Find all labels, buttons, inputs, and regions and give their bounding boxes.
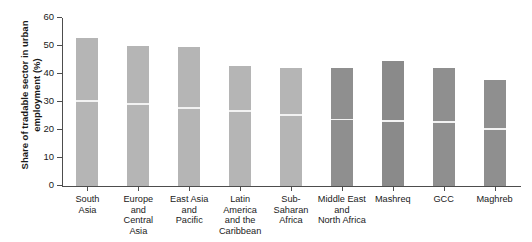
- y-tick-mark: [57, 129, 62, 130]
- y-tick-label: 0: [24, 179, 54, 190]
- y-tick-mark: [57, 45, 62, 46]
- bar-divider-line: [76, 100, 98, 102]
- x-tick-mark: [291, 186, 292, 191]
- plot-area: 0102030405060: [62, 18, 520, 186]
- x-tick-mark: [495, 186, 496, 191]
- x-tick-mark: [240, 186, 241, 191]
- bar-group[interactable]: [178, 18, 200, 186]
- x-tick-mark: [342, 186, 343, 191]
- bar-divider-line: [229, 110, 251, 112]
- x-category-label: GCC: [418, 194, 469, 205]
- y-tick-mark: [57, 101, 62, 102]
- y-tick-mark: [57, 73, 62, 74]
- y-tick-label: 50: [24, 39, 54, 50]
- x-category-label: South Asia: [62, 194, 113, 215]
- x-category-label: Europe and Central Asia: [113, 194, 164, 236]
- bar-group[interactable]: [382, 18, 404, 186]
- x-category-label: East Asia and Pacific: [164, 194, 215, 226]
- bar-group[interactable]: [331, 18, 353, 186]
- x-tick-mark: [393, 186, 394, 191]
- x-category-label: Sub- Saharan Africa: [266, 194, 317, 226]
- bar-divider-line: [433, 121, 455, 123]
- bar-divider-line: [382, 120, 404, 122]
- y-tick-mark: [57, 185, 62, 186]
- bar-divider-line: [178, 107, 200, 109]
- x-tick-mark: [444, 186, 445, 191]
- y-tick-mark: [57, 157, 62, 158]
- bar-group[interactable]: [127, 18, 149, 186]
- bar-chart: Share of tradable sector in urban employ…: [0, 0, 532, 242]
- x-category-label: Maghreb: [469, 194, 520, 205]
- bar[interactable]: [229, 66, 251, 186]
- bar-group[interactable]: [484, 18, 506, 186]
- bar-group[interactable]: [433, 18, 455, 186]
- y-tick-label: 60: [24, 11, 54, 22]
- bar[interactable]: [433, 68, 455, 186]
- bar[interactable]: [280, 68, 302, 186]
- x-category-label: Middle East and North Africa: [316, 194, 367, 226]
- x-category-label: Latin America and the Caribbean: [215, 194, 266, 236]
- y-tick-label: 30: [24, 95, 54, 106]
- x-tick-mark: [189, 186, 190, 191]
- y-tick-mark: [57, 17, 62, 18]
- bar[interactable]: [331, 68, 353, 186]
- bar[interactable]: [382, 61, 404, 186]
- bar-group[interactable]: [76, 18, 98, 186]
- bar-divider-line: [331, 119, 353, 121]
- bar-divider-line: [280, 114, 302, 116]
- x-tick-mark: [138, 186, 139, 191]
- bar-divider-line: [484, 128, 506, 130]
- bar-divider-line: [127, 103, 149, 105]
- bar[interactable]: [127, 46, 149, 186]
- bar-group[interactable]: [229, 18, 251, 186]
- y-tick-label: 10: [24, 151, 54, 162]
- bar[interactable]: [76, 38, 98, 186]
- bar-group[interactable]: [280, 18, 302, 186]
- x-category-label: Mashreq: [367, 194, 418, 205]
- bar[interactable]: [484, 80, 506, 186]
- y-tick-label: 20: [24, 123, 54, 134]
- y-tick-label: 40: [24, 67, 54, 78]
- x-tick-mark: [87, 186, 88, 191]
- bar[interactable]: [178, 47, 200, 186]
